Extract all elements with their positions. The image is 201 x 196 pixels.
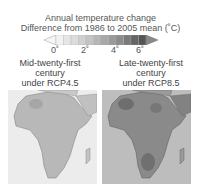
- panel-label-line: under RCP8.5: [103, 78, 199, 88]
- southern-hotspot: [141, 153, 155, 171]
- panel-label-late-century: Late-twenty-first century under RCP8.5: [103, 58, 199, 88]
- sahara-hotspot: [29, 99, 43, 109]
- sahara-hotspot: [118, 98, 134, 110]
- panel-label-line: century: [103, 68, 199, 78]
- map-rcp45: [8, 90, 97, 184]
- panel-label-line: Late-twenty-first: [103, 58, 199, 68]
- colorbar-tick-6: 6˚: [136, 45, 144, 55]
- colorbar-tick-0: 0˚: [51, 45, 59, 55]
- colorbar-cells: [56, 35, 146, 45]
- figure-title: Annual temperature change: [0, 13, 201, 23]
- central-hotspot: [150, 103, 162, 113]
- colorbar-tick-4: 4˚: [111, 45, 119, 55]
- panel-label-mid-century: Mid-twenty-first century under RCP4.5: [2, 58, 98, 88]
- panel-label-line: century: [2, 68, 98, 78]
- figure-subtitle: Difference from 1986 to 2005 mean (˚C): [0, 23, 201, 33]
- panel-label-line: under RCP4.5: [2, 78, 98, 88]
- colorbar-extend-right: [146, 35, 158, 45]
- colorbar: [44, 35, 158, 45]
- colorbar-extend-left: [44, 35, 56, 45]
- colorbar-tick-2: 2˚: [81, 45, 89, 55]
- map-rcp85: [102, 90, 191, 184]
- panel-label-line: Mid-twenty-first: [2, 58, 98, 68]
